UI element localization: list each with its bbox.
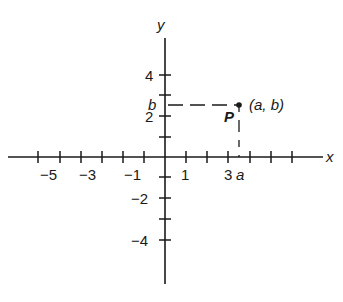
x-tick-label: 3 xyxy=(224,166,232,183)
x-axis-label: x xyxy=(325,148,334,165)
coordinate-plane-diagram: x y −5 −3 −1 1 3 4 2 −2 −4 P (a, b) b a xyxy=(0,0,343,302)
y-tick-label: 4 xyxy=(145,67,153,84)
x-tick-label: −1 xyxy=(124,166,141,183)
x-tick-label: −3 xyxy=(79,166,96,183)
x-tick-label: −5 xyxy=(40,166,57,183)
point-p-marker xyxy=(236,102,242,108)
x-projection-label: a xyxy=(236,166,244,183)
y-axis-label: y xyxy=(156,16,166,33)
point-coordinate-label: (a, b) xyxy=(249,96,284,113)
y-tick-label: −2 xyxy=(131,190,148,207)
x-tick-label: 1 xyxy=(181,166,189,183)
point-name-label: P xyxy=(224,108,235,125)
y-tick-label: −4 xyxy=(131,232,148,249)
y-projection-label: b xyxy=(148,96,156,113)
